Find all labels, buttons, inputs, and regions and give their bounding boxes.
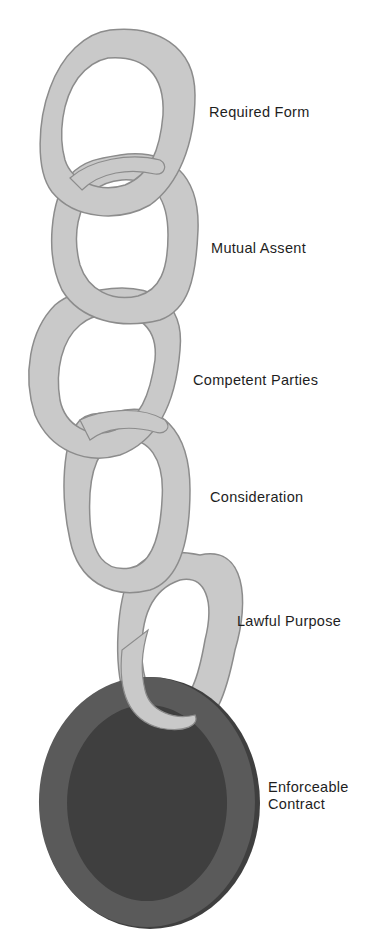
label-enforceable-contract: Enforceable Contract <box>268 779 349 813</box>
label-required-form: Required Form <box>209 104 310 121</box>
label-consideration: Consideration <box>210 489 303 506</box>
label-competent-parties: Competent Parties <box>193 372 318 389</box>
label-lawful-purpose: Lawful Purpose <box>237 613 341 630</box>
label-mutual-assent: Mutual Assent <box>211 240 306 257</box>
